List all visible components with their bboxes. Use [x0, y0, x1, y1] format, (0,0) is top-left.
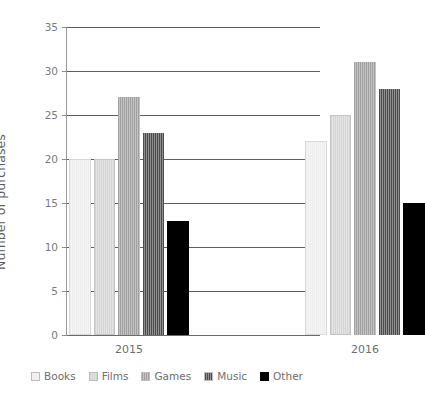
x-tick-label-2016: 2016 [351, 343, 379, 356]
legend-swatch-other-icon [260, 372, 269, 381]
y-tick-label-35: 35 [18, 21, 58, 33]
legend-swatch-films-icon [89, 372, 98, 381]
legend-swatch-games-icon [141, 372, 150, 381]
gridline-0 [67, 335, 320, 336]
gridline-30 [67, 71, 320, 72]
bar-2015-films [94, 159, 116, 335]
legend-label: Other [273, 370, 303, 382]
gridline-35 [67, 27, 320, 28]
y-tick-label-5: 5 [18, 285, 58, 297]
chart-legend: BooksFilmsGamesMusicOther [0, 370, 334, 382]
y-tick-label-10: 10 [18, 241, 58, 253]
legend-swatch-books-icon [31, 372, 40, 381]
legend-item-other[interactable]: Other [260, 370, 303, 382]
gridline-25 [67, 115, 320, 116]
bar-2015-games [118, 97, 140, 335]
bar-2015-music [143, 133, 165, 335]
legend-label: Books [44, 370, 76, 382]
legend-item-films[interactable]: Films [89, 370, 129, 382]
y-tick-label-0: 0 [18, 329, 58, 341]
legend-item-music[interactable]: Music [204, 370, 247, 382]
bar-2016-games [354, 62, 376, 335]
y-tick-label-30: 30 [18, 65, 58, 77]
bar-2016-music [379, 89, 401, 335]
bar-2016-films [330, 115, 352, 335]
x-tick-label-2015: 2015 [115, 343, 143, 356]
bar-2016-other [403, 203, 425, 335]
legend-label: Music [217, 370, 247, 382]
y-tick-label-20: 20 [18, 153, 58, 165]
plot-area [67, 27, 320, 335]
bar-2015-books [69, 159, 91, 335]
y-tick-label-15: 15 [18, 197, 58, 209]
legend-label: Games [154, 370, 191, 382]
bar-2015-other [167, 221, 189, 335]
legend-swatch-music-icon [204, 372, 213, 381]
y-tick-label-25: 25 [18, 109, 58, 121]
legend-label: Films [102, 370, 129, 382]
legend-item-games[interactable]: Games [141, 370, 191, 382]
legend-item-books[interactable]: Books [31, 370, 76, 382]
bar-2016-books [305, 141, 327, 335]
